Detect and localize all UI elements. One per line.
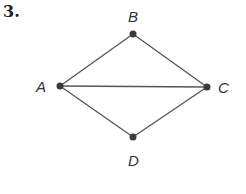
vertex-label-a: A <box>35 78 46 95</box>
edge-a-c <box>60 86 207 87</box>
vertex-a <box>57 83 64 90</box>
vertex-label-d: D <box>128 152 139 169</box>
vertex-label-c: C <box>218 79 229 96</box>
edges <box>60 34 207 137</box>
vertex-label-b: B <box>128 8 138 25</box>
vertex-c <box>204 84 211 91</box>
edge-a-b <box>60 34 133 86</box>
edge-b-c <box>133 34 207 87</box>
vertex-b <box>130 31 137 38</box>
vertex-d <box>130 134 137 141</box>
edge-a-d <box>60 86 133 137</box>
graph-diagram: A B C D <box>0 0 246 194</box>
edge-d-c <box>133 87 207 137</box>
